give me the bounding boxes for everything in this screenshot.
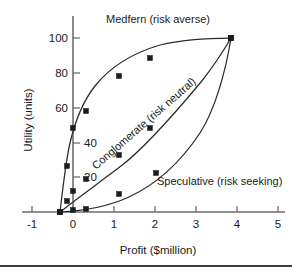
x-tick-label-5: 5 [275,218,281,230]
y-tick-label-80: 80 [55,67,68,79]
y-tick-label-40: 40 [84,137,97,149]
y-axis-title: Utility (units) [22,88,34,151]
y-tick-marks [73,38,80,177]
x-tick-label--1: -1 [27,218,37,230]
series-label-medfern: Medfern (risk averse) [106,13,210,25]
x-tick-label-1: 1 [111,218,117,230]
y-tick-label-100: 100 [49,32,68,44]
series-label-speculative: Speculative (risk seeking) [157,175,282,187]
x-tick-label-3: 3 [193,218,199,230]
chart-canvas: -1 0 1 2 3 4 5 100 80 60 40 20 Utility (… [0,0,292,273]
x-tick-label-0: 0 [70,218,76,230]
x-tick-label-4: 4 [234,218,241,230]
utility-function-chart: -1 0 1 2 3 4 5 100 80 60 40 20 Utility (… [0,0,292,273]
y-tick-label-60: 60 [55,102,68,114]
x-tick-label-2: 2 [152,218,158,230]
x-axis-title: Profit ($million) [120,244,197,256]
footer-divider [0,265,292,267]
